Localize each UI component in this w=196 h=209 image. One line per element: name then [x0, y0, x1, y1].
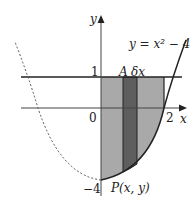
diagram-graphic: [0, 0, 196, 209]
tick-y-minus-4: −4: [83, 183, 101, 195]
delta-x-strip: [123, 77, 137, 172]
axis-x-label: x: [180, 113, 187, 125]
tick-y-1: 1: [91, 66, 99, 78]
tick-x-2: 2: [166, 112, 174, 124]
curve-equation-label: y = x² − 4: [129, 38, 190, 50]
x-axis-arrow-icon: [179, 105, 187, 112]
axis-y-label: y: [90, 13, 97, 25]
y-axis-arrow-icon: [98, 15, 105, 23]
delta-x-label: δx: [131, 66, 145, 78]
area-between-curves-diagram: y y = x² − 4 1 A δx 0 2 x −4 P(x, y): [0, 0, 196, 209]
point-A-label: A: [119, 66, 128, 78]
point-P-label: P(x, y): [111, 182, 150, 194]
tick-origin: 0: [89, 112, 97, 124]
